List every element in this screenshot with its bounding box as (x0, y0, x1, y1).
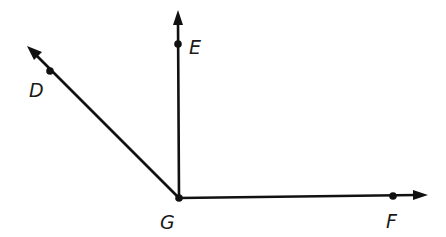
ray-gd-line (34, 53, 179, 198)
angle-diagram: D E F G (0, 0, 446, 237)
ray-ge-arrowhead-icon (173, 10, 183, 25)
ray-gf-line (179, 195, 417, 198)
point-g (175, 194, 183, 202)
label-f: F (386, 210, 398, 232)
point-d (46, 67, 54, 75)
ray-ge (173, 10, 183, 198)
point-e (174, 40, 182, 48)
label-g: G (160, 211, 175, 233)
label-e: E (189, 36, 201, 58)
ray-gf-arrowhead-icon (413, 190, 428, 200)
label-d: D (29, 79, 44, 101)
point-f (389, 192, 397, 200)
